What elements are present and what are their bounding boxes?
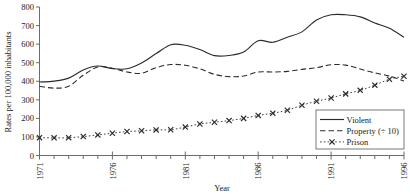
data-point-marker bbox=[212, 120, 217, 125]
y-tick-label: 600 bbox=[21, 39, 34, 49]
data-point-marker bbox=[226, 118, 231, 123]
data-point-marker bbox=[124, 129, 129, 134]
legend-label: Prison bbox=[347, 137, 369, 147]
x-tick-label: 1986 bbox=[253, 163, 263, 180]
y-axis-ticks: 0100200300400500600700800 bbox=[21, 2, 39, 161]
chart-container: Rates per 100,000 inhabitants 0100200300… bbox=[0, 0, 410, 195]
series-property bbox=[40, 64, 405, 88]
x-axis-title: Year bbox=[214, 183, 230, 193]
chart-legend[interactable]: ViolentProperty (÷ 10)Prison bbox=[316, 110, 404, 149]
data-point-marker bbox=[285, 108, 290, 113]
data-point-marker bbox=[299, 103, 304, 108]
series-line bbox=[40, 14, 405, 82]
y-tick-label: 200 bbox=[21, 113, 34, 123]
line-chart: Rates per 100,000 inhabitants 0100200300… bbox=[0, 0, 410, 195]
y-tick-label: 700 bbox=[21, 21, 34, 31]
x-tick-label: 1991 bbox=[326, 163, 336, 180]
x-tick-label: 1981 bbox=[181, 163, 191, 180]
data-point-marker bbox=[387, 77, 392, 82]
legend-label: Violent bbox=[347, 115, 373, 125]
data-point-marker bbox=[256, 113, 261, 118]
y-tick-label: 100 bbox=[21, 132, 34, 142]
series-violent bbox=[40, 14, 405, 82]
x-tick-label: 1976 bbox=[108, 163, 118, 180]
data-point-marker bbox=[372, 83, 377, 88]
data-point-marker bbox=[139, 128, 144, 133]
x-tick-label: 1996 bbox=[399, 163, 409, 180]
y-axis-label: Rates per 100,000 inhabitants bbox=[3, 31, 13, 132]
y-axis-label-group: Rates per 100,000 inhabitants bbox=[3, 31, 13, 132]
y-tick-label: 300 bbox=[21, 95, 34, 105]
data-point-marker bbox=[110, 131, 115, 136]
y-tick-label: 400 bbox=[21, 76, 34, 86]
data-point-marker bbox=[358, 88, 363, 93]
y-tick-label: 800 bbox=[21, 2, 34, 12]
data-point-marker bbox=[95, 132, 100, 137]
x-tick-label: 1971 bbox=[35, 163, 45, 180]
y-tick-label: 500 bbox=[21, 58, 34, 68]
data-point-marker bbox=[197, 121, 202, 126]
data-point-marker bbox=[241, 116, 246, 121]
y-tick-label: 0 bbox=[30, 151, 34, 161]
series-line bbox=[40, 64, 405, 88]
legend-label: Property (÷ 10) bbox=[347, 126, 400, 136]
